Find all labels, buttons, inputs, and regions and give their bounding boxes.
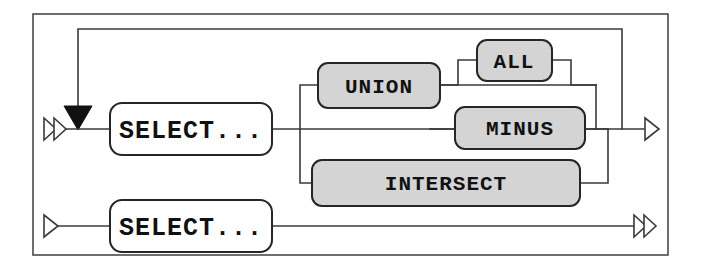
entry-bottom-single-chevron-icon [44,215,58,237]
node-minus[interactable]: MINUS [455,107,585,149]
node-intersect[interactable]: INTERSECT [312,160,580,206]
intersect-label: INTERSECT [385,173,507,196]
select-top-label: SELECT... [119,117,263,146]
minus-label: MINUS [486,118,554,141]
entry-top-double-chevron-icon [44,118,66,140]
node-union[interactable]: UNION [318,63,440,108]
node-all[interactable]: ALL [477,40,552,81]
union-label: UNION [345,76,413,99]
exit-bottom-double-chevron-icon [634,215,656,237]
loopback-join-arrow-icon [64,106,92,130]
node-select-top[interactable]: SELECT... [110,103,272,155]
syntax-diagram-canvas: SELECT... UNION ALL MINUS INTERSECT SELE… [0,0,701,268]
select-bottom-label: SELECT... [119,214,263,243]
railroad-diagram-root: SELECT... UNION ALL MINUS INTERSECT SELE… [0,0,701,268]
exit-top-single-chevron-icon [645,118,659,140]
all-label: ALL [494,51,535,74]
node-select-bottom[interactable]: SELECT... [110,200,272,252]
